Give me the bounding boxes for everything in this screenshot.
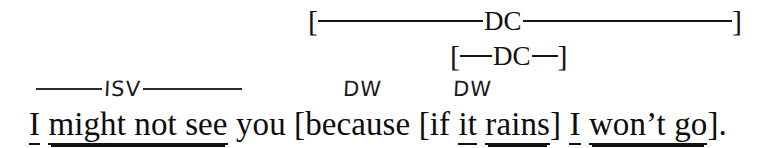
isv-rule-left [36,88,102,90]
plain-close-bracket-period: ]. [707,106,726,142]
subject-i-1: I [29,106,40,145]
close-bracket-icon: ] [558,41,568,71]
clause-span-outer: [ DC ] [308,8,742,34]
span-rule-left [318,20,483,22]
span-label-dc-inner: DC [492,43,532,70]
open-bracket-icon: [ [450,41,460,71]
subject-it: it [458,106,477,145]
space-3 [581,106,589,142]
isv-rule-right [143,88,242,90]
sentence-clause-diagram: [ DC ] [ DC ] ISV DW DW I might not see … [0,0,771,148]
span-label-dc-outer: DC [483,8,523,35]
predicate-might-not-see: might not see [48,106,227,145]
span-rule-right [532,55,558,57]
plain-you-because-if: you [because [if [228,106,459,142]
plain-close-bracket-1: ] [550,106,569,142]
isv-label: ISV [101,79,143,100]
dw-label-if: DW [452,79,492,100]
sentence-line: I might not see you [because [if it rain… [29,104,727,144]
span-rule-right [523,20,732,22]
open-bracket-icon: [ [308,6,318,36]
predicate-rains: rains [485,106,550,145]
clause-span-inner: [ DC ] [450,43,592,69]
dw-label-because: DW [342,79,382,100]
span-rule-left [460,55,492,57]
close-bracket-icon: ] [732,6,742,36]
isv-annotation-span: ISV [36,78,242,100]
subject-i-2: I [569,106,580,145]
predicate-wont-go: won’t go [589,106,707,145]
